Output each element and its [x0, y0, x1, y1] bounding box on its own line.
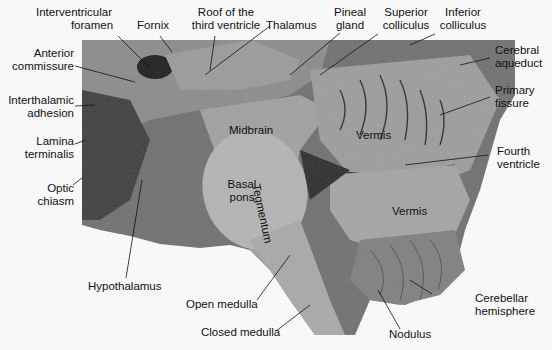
label-fornix: Fornix [137, 19, 169, 32]
label-line: colliculus [378, 19, 434, 32]
label-line: Superior [378, 6, 434, 19]
label-line: Closed medulla [201, 326, 280, 339]
label-line: Lamina [4, 135, 74, 148]
label-hypothalamus: Hypothalamus [88, 280, 162, 293]
label-line: Primary [495, 84, 535, 97]
label-interventricular-foramen: Interventricular foramen [14, 6, 134, 32]
label-midbrain: Midbrain [229, 124, 273, 137]
label-line: adhesion [0, 107, 74, 120]
label-thalamus: Thalamus [266, 19, 317, 32]
anatomy-figure: Interventricular foramen Fornix Roof of … [0, 0, 552, 350]
label-line: Roof of the [188, 6, 264, 19]
label-line: Fourth [497, 145, 540, 158]
label-lamina-terminalis: Lamina terminalis [4, 135, 74, 161]
label-line: aqueduct [495, 57, 542, 70]
label-line: fissure [495, 97, 535, 110]
label-open-medulla: Open medulla [186, 298, 258, 311]
label-line: terminalis [4, 148, 74, 161]
label-line: pons [220, 191, 264, 204]
label-vermis-upper: Vermis [356, 129, 391, 142]
label-line: chiasm [4, 195, 74, 208]
label-line: gland [330, 19, 370, 32]
label-nodulus: Nodulus [389, 328, 431, 341]
label-pineal-gland: Pineal gland [330, 6, 370, 32]
label-basal-pons: Basal pons [220, 178, 264, 204]
label-inferior-colliculus: Inferior colliculus [436, 6, 490, 32]
label-superior-colliculus: Superior colliculus [378, 6, 434, 32]
label-vermis-lower: Vermis [392, 205, 427, 218]
label-line: Pineal [330, 6, 370, 19]
label-line: foramen [14, 19, 134, 32]
label-line: Fornix [137, 19, 169, 32]
label-closed-medulla: Closed medulla [201, 326, 280, 339]
label-line: Open medulla [186, 298, 258, 311]
label-line: Inferior [436, 6, 490, 19]
label-line: third ventricle [188, 19, 264, 32]
label-line: Hypothalamus [88, 280, 162, 293]
label-line: Thalamus [266, 19, 317, 32]
label-interthalamic-adhesion: Interthalamic adhesion [0, 94, 74, 120]
label-line: hemisphere [475, 305, 535, 318]
label-cerebellar-hemisphere: Cerebellar hemisphere [475, 292, 535, 318]
label-line: Basal [220, 178, 264, 191]
label-line: ventricle [497, 158, 540, 171]
label-fourth-ventricle: Fourth ventricle [497, 145, 540, 171]
brain-specimen-photo [0, 0, 552, 350]
label-line: Nodulus [389, 328, 431, 341]
label-anterior-commissure: Anterior commissure [4, 47, 74, 73]
label-roof-third-ventricle: Roof of the third ventricle [188, 6, 264, 32]
label-line: Optic [4, 182, 74, 195]
label-line: colliculus [436, 19, 490, 32]
label-line: Interventricular [14, 6, 134, 19]
label-cerebral-aqueduct: Cerebral aqueduct [495, 44, 542, 70]
label-line: Cerebral [495, 44, 542, 57]
label-line: commissure [4, 60, 74, 73]
label-line: Interthalamic [0, 94, 74, 107]
label-primary-fissure: Primary fissure [495, 84, 535, 110]
label-line: Cerebellar [475, 292, 535, 305]
label-line: Anterior [4, 47, 74, 60]
label-optic-chiasm: Optic chiasm [4, 182, 74, 208]
